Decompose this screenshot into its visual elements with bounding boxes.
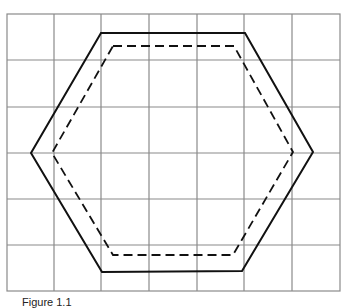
figure-caption: Figure 1.1 (22, 296, 72, 308)
grid (7, 14, 340, 291)
inner-hexagon (52, 46, 293, 255)
